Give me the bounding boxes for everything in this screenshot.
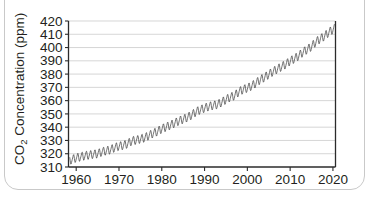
xtick-label-1990: 1990 — [190, 172, 220, 187]
y-axis-title-rest: Concentration (ppm) — [12, 13, 27, 140]
ytick-label-370: 370 — [40, 80, 63, 95]
xtick-label-1960: 1960 — [61, 172, 91, 187]
xtick-label-2020: 2020 — [318, 172, 348, 187]
xtick-label-1980: 1980 — [147, 172, 177, 187]
figure-card: 310320330340350360370380390400410420 196… — [0, 0, 369, 201]
ytick-label-380: 380 — [40, 67, 63, 82]
co2-keeling-curve-line — [70, 25, 335, 165]
ytick-label-330: 330 — [40, 133, 63, 148]
ytick-label-360: 360 — [40, 93, 63, 108]
xtick-label-2010: 2010 — [275, 172, 305, 187]
ytick-label-410: 410 — [40, 27, 63, 42]
ytick-label-390: 390 — [40, 53, 63, 68]
co2-concentration-line-chart: 310320330340350360370380390400410420 196… — [0, 0, 369, 201]
y-axis-tick-labels: 310320330340350360370380390400410420 — [40, 14, 63, 175]
ytick-label-350: 350 — [40, 107, 63, 122]
ytick-label-420: 420 — [40, 14, 63, 29]
gridlines — [69, 21, 336, 154]
xtick-label-1970: 1970 — [104, 172, 134, 187]
ytick-label-340: 340 — [40, 120, 63, 135]
ytick-label-400: 400 — [40, 40, 63, 55]
y-axis-title-main: CO — [12, 145, 27, 165]
ytick-label-310: 310 — [40, 160, 63, 175]
y-axis-title: CO2 Concentration (ppm) — [12, 13, 29, 165]
x-axis-tick-labels: 1960197019801990200020102020 — [61, 172, 348, 187]
xtick-label-2000: 2000 — [232, 172, 262, 187]
ytick-label-320: 320 — [40, 146, 63, 161]
